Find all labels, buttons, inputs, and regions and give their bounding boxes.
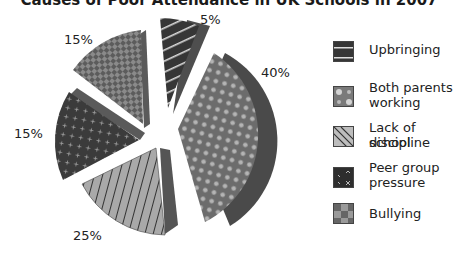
swatch-peer-icon	[333, 167, 354, 188]
legend-item-bullying: Bullying	[333, 203, 458, 243]
label-bullying-pct: 15%	[64, 32, 93, 47]
label-upbringing-pct: 5%	[200, 12, 221, 27]
label-discipline-pct: 25%	[73, 228, 102, 243]
legend-label-both-parents-2: working	[369, 95, 421, 110]
legend-label-both-parents-1: Both parents	[369, 80, 453, 95]
swatch-discipline-icon	[333, 126, 354, 147]
legend-label-peer-1: Peer group	[369, 160, 440, 175]
swatch-upbringing-icon	[333, 41, 354, 62]
legend-label-upbringing: Upbringing	[369, 42, 441, 57]
legend-item-both-parents: Both parents working	[333, 80, 458, 120]
label-peer-pct: 15%	[14, 126, 43, 141]
legend-item-peer: Peer group pressure	[333, 160, 458, 200]
swatch-both-parents-icon	[333, 86, 354, 107]
legend-label-peer-2: pressure	[369, 175, 425, 190]
legend-label-bullying: Bullying	[369, 206, 421, 221]
legend-item-upbringing: Upbringing	[333, 38, 458, 78]
label-both-parents-pct: 40%	[261, 65, 290, 80]
swatch-bullying-icon	[333, 203, 354, 224]
legend-label-discipline-2: discipline	[369, 135, 430, 150]
legend-item-discipline: Lack of school discipline	[333, 120, 458, 160]
